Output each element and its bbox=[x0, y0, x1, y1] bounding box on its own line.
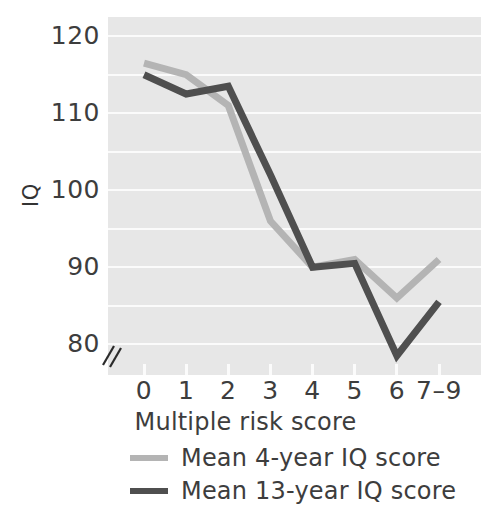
iq-multiple-risk-score-line-chart: IQ 1201101009080 01234567–9 Multiple ris… bbox=[0, 0, 491, 514]
legend-swatch-mean-4-year bbox=[130, 455, 168, 461]
series-line-mean-13-year bbox=[144, 75, 439, 356]
x-tick-label: 5 bbox=[347, 378, 363, 403]
y-axis-tick-labels: 1201101009080 bbox=[0, 0, 100, 514]
plot-area bbox=[108, 17, 481, 375]
legend-label-mean-4-year: Mean 4-year IQ score bbox=[181, 444, 441, 472]
x-tick-label: 7–9 bbox=[416, 378, 462, 403]
legend: Mean 4-year IQ score Mean 13-year IQ sco… bbox=[0, 441, 491, 507]
series-line-mean-4-year bbox=[144, 63, 439, 298]
x-tick-label: 0 bbox=[136, 378, 152, 403]
y-tick-label: 90 bbox=[0, 254, 100, 279]
y-tick-label: 120 bbox=[0, 23, 100, 48]
y-tick-label: 80 bbox=[0, 331, 100, 356]
legend-swatch-mean-13-year bbox=[130, 488, 168, 494]
legend-item: Mean 4-year IQ score bbox=[0, 441, 491, 474]
legend-item: Mean 13-year IQ score bbox=[0, 474, 491, 507]
x-tick-label: 4 bbox=[304, 378, 320, 403]
x-axis-tick-labels: 01234567–9 bbox=[108, 378, 481, 408]
y-tick-label: 100 bbox=[0, 177, 100, 202]
x-tick-label: 1 bbox=[178, 378, 194, 403]
x-axis-title: Multiple risk score bbox=[0, 408, 491, 436]
x-tick-label: 2 bbox=[220, 378, 236, 403]
x-tick-label: 3 bbox=[262, 378, 278, 403]
data-series-lines bbox=[108, 17, 481, 375]
legend-label-mean-13-year: Mean 13-year IQ score bbox=[181, 477, 456, 505]
x-tick-label: 6 bbox=[389, 378, 405, 403]
y-axis-break-icon bbox=[99, 340, 123, 370]
y-tick-label: 110 bbox=[0, 100, 100, 125]
